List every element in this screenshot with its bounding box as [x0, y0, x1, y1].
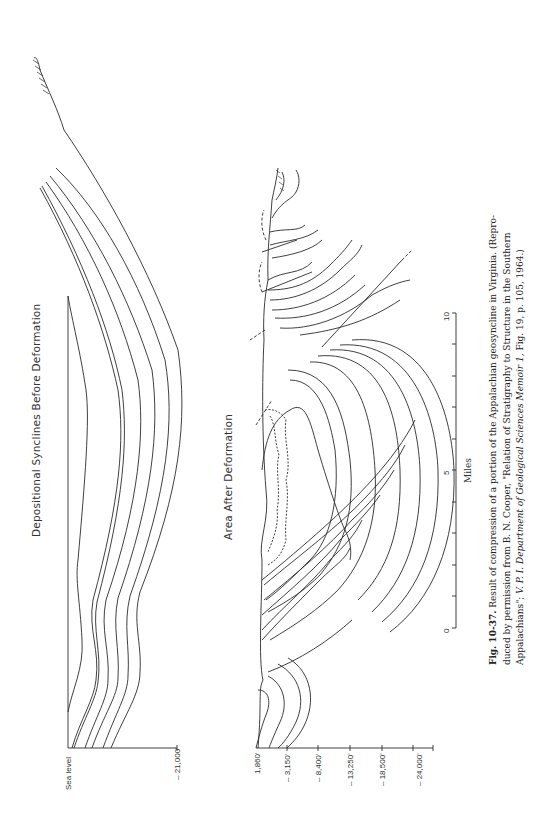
scale-tick-10: 10 [442, 312, 451, 321]
depth-label-21000: – 21,000' [173, 747, 182, 780]
figure-number: Fig. 10-37. [488, 611, 498, 665]
scale-unit-label: Miles [463, 458, 473, 483]
sea-level-label: Sea level [64, 757, 73, 790]
cross-section-figure [0, 0, 559, 838]
caption-line-2: duced by permission from B. N. Cooper, "… [501, 215, 515, 665]
scale-tick-0: 0 [442, 629, 451, 633]
scale-tick-5: 5 [442, 471, 451, 475]
deformed-structure [250, 168, 454, 751]
figure-caption: Fig. 10-37. Result of compression of a p… [487, 215, 528, 665]
depth-label-18500: – 18,500' [378, 753, 387, 786]
depositional-synclines [33, 58, 182, 752]
depth-label-8400: – 8,400' [314, 754, 323, 782]
depth-label-13250: – 13,250' [346, 753, 355, 786]
lower-section-title: Area After Deformation [222, 414, 234, 540]
upper-section-title: Depositional Synclines Before Deformatio… [30, 304, 42, 537]
depth-label-3150: – 3,150' [283, 754, 292, 782]
caption-line-1: Fig. 10-37. Result of compression of a p… [487, 215, 501, 665]
caption-line-3: Appalachians"; V. P. I. Department of Ge… [514, 215, 528, 665]
depth-label-24000: – 24,000' [415, 753, 424, 786]
depth-label-1860: 1,860' [253, 752, 262, 774]
